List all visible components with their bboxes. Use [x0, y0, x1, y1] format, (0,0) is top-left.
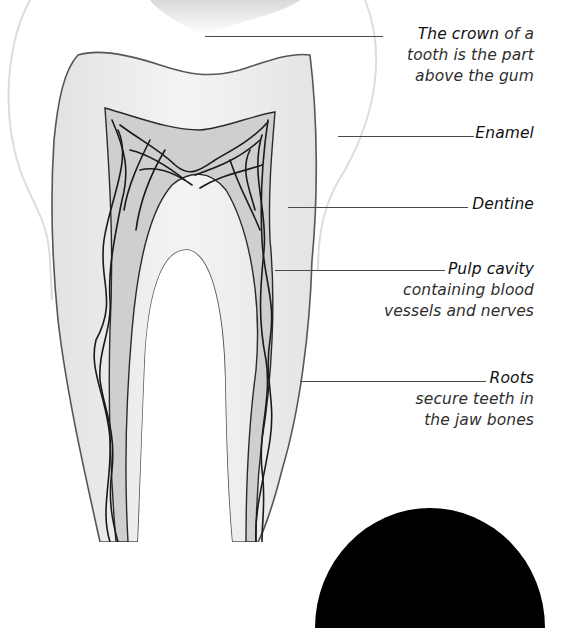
leader-line-crown — [205, 36, 383, 37]
label-pulp-title: Pulp cavity — [384, 259, 534, 280]
label-crown: The crown of a tooth is the part above t… — [407, 24, 534, 87]
label-roots: Roots secure teeth in the jaw bones — [416, 368, 534, 431]
label-dentine: Dentine — [472, 194, 534, 215]
label-crown-desc-2: above the gum — [407, 66, 534, 87]
label-enamel: Enamel — [475, 123, 534, 144]
crown-shade — [150, 0, 300, 35]
label-enamel-title: Enamel — [475, 123, 534, 144]
label-dentine-title: Dentine — [472, 194, 534, 215]
label-pulp-desc-2: vessels and nerves — [384, 301, 534, 322]
label-roots-desc-2: the jaw bones — [416, 410, 534, 431]
label-pulp: Pulp cavity containing blood vessels and… — [384, 259, 534, 322]
label-roots-desc-1: secure teeth in — [416, 389, 534, 410]
label-crown-title: The crown — [418, 25, 500, 43]
label-crown-desc-inline: of a — [499, 25, 534, 43]
leader-line-enamel — [338, 136, 474, 137]
label-pulp-desc-1: containing blood — [384, 280, 534, 301]
leader-line-dentine — [288, 207, 468, 208]
label-crown-desc-1: tooth is the part — [407, 45, 534, 66]
label-roots-title: Roots — [416, 368, 534, 389]
